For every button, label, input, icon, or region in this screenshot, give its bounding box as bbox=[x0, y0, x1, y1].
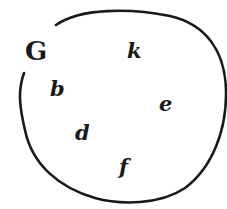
set-label-g: G bbox=[25, 38, 47, 64]
element-f: f bbox=[119, 156, 128, 177]
element-k: k bbox=[127, 40, 142, 61]
element-b: b bbox=[50, 78, 65, 99]
element-d: d bbox=[75, 122, 90, 143]
element-e: e bbox=[159, 93, 172, 114]
set-boundary-curve bbox=[0, 0, 227, 209]
set-diagram: G k b e d f bbox=[0, 0, 227, 209]
